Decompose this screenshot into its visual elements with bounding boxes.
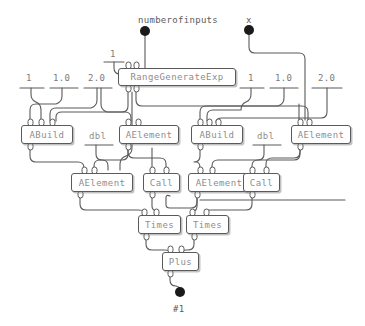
node-label: Times (145, 220, 174, 230)
node-aelement-top-left[interactable]: AElement (119, 125, 179, 144)
node-rangegenerateexp[interactable]: RangeGenerateExp (118, 68, 236, 86)
node-call-right[interactable]: Call (243, 173, 280, 192)
node-label: ABuild (30, 130, 65, 140)
node-label: AElement (79, 178, 126, 188)
wire-layer (0, 0, 365, 326)
node-label: RangeGenerateExp (130, 72, 223, 82)
node-label: Plus (169, 257, 192, 267)
terminal-dot-numberofinputs (140, 26, 150, 36)
terminal-dot-x (244, 25, 254, 35)
constant-label-right-1p0: 1.0 (275, 73, 292, 83)
node-aelement-mid-left[interactable]: AElement (71, 173, 133, 192)
constant-label-left-1p0: 1.0 (53, 73, 70, 83)
node-label: Call (150, 178, 173, 188)
node-plus[interactable]: Plus (162, 252, 199, 271)
node-label: Call (250, 178, 273, 188)
constant-label-top-1: 1 (110, 49, 116, 59)
node-label: ABuild (200, 130, 235, 140)
label-dbl-right: dbl (257, 131, 274, 141)
terminal-label-numberofinputs: numberofinputs (138, 15, 218, 25)
constant-label-left-2p0: 2.0 (88, 73, 105, 83)
terminal-label-x: x (246, 15, 252, 25)
constant-label-right-1: 1 (248, 73, 254, 83)
constant-label-left-1: 1 (26, 73, 32, 83)
node-label: AElement (126, 130, 173, 140)
node-call-left[interactable]: Call (143, 173, 180, 192)
node-times-left[interactable]: Times (138, 215, 181, 234)
terminal-label-output: #1 (173, 304, 184, 314)
node-abuild-left[interactable]: ABuild (21, 125, 73, 144)
terminal-dot-output (175, 287, 185, 297)
constant-label-right-2p0: 2.0 (318, 73, 335, 83)
node-label: AElement (196, 178, 243, 188)
node-label: AElement (298, 130, 345, 140)
label-dbl-left: dbl (89, 131, 106, 141)
node-abuild-right[interactable]: ABuild (191, 125, 243, 144)
node-aelement-mid-right[interactable]: AElement (188, 173, 250, 192)
node-aelement-top-right[interactable]: AElement (291, 125, 351, 144)
node-times-right[interactable]: Times (186, 215, 229, 234)
node-label: Times (193, 220, 222, 230)
diagram-canvas: numberofinputs x #1 1 1 1.0 2.0 1 1.0 2.… (0, 0, 365, 326)
